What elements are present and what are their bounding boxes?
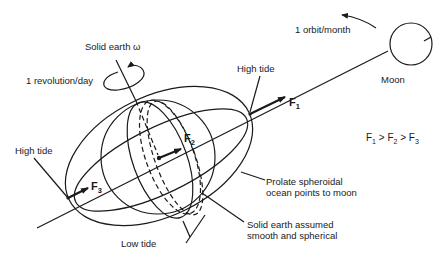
label-high-tide-left: High tide <box>15 145 53 156</box>
rotation-arrow-icon <box>104 65 144 90</box>
label-solid-earth-assumed-line1: Solid earth assumed <box>247 219 334 230</box>
leader-low-tide <box>186 215 205 243</box>
label-prolate-line2: ocean points to moon <box>266 187 357 198</box>
rotation-axis-bottom <box>183 221 190 237</box>
f3-vector <box>68 188 88 198</box>
label-prolate-line1: Prolate spheroidal <box>266 176 343 187</box>
label-moon: Moon <box>381 74 405 85</box>
earth-center-dot <box>157 156 161 160</box>
label-low-tide: Low tide <box>121 238 156 249</box>
tidal-diagram <box>0 0 441 261</box>
label-f3: F3 <box>91 180 102 195</box>
leader-high-tide-right <box>250 76 260 112</box>
label-f1: F1 <box>289 96 300 111</box>
leader-solid-earth <box>202 193 244 222</box>
force-inequality: F1 > F2 > F3 <box>366 132 419 145</box>
leader-prolate <box>241 172 265 180</box>
high-tide-right-point <box>248 112 251 115</box>
label-f2: F2 <box>184 132 195 147</box>
high-tide-left-point <box>66 196 69 199</box>
moon-circle <box>390 23 432 65</box>
label-revolution-per-day: 1 revolution/day <box>26 75 93 86</box>
label-orbit-per-month: 1 orbit/month <box>295 24 350 35</box>
moon-tick <box>424 37 431 41</box>
rotation-axis <box>116 60 136 101</box>
label-high-tide-right: High tide <box>237 63 275 74</box>
label-solid-earth-assumed-line2: smooth and spherical <box>247 230 337 241</box>
leader-high-tide-left <box>34 158 68 198</box>
label-solid-earth-omega: Solid earth ω <box>85 41 140 52</box>
